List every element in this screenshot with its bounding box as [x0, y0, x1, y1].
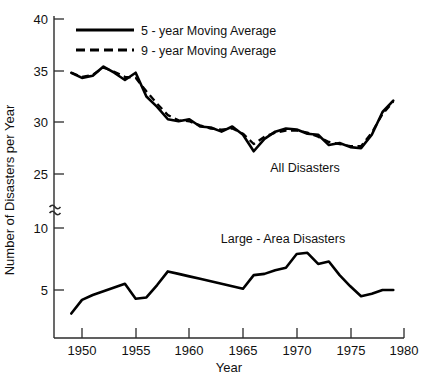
y-axis-title: Number of Disasters per Year	[2, 104, 17, 275]
data-series-layer	[71, 67, 393, 314]
y-tick-label-5: 5	[41, 283, 48, 298]
x-tick-label-1960: 1960	[175, 343, 204, 358]
y-tick-label-10: 10	[34, 221, 48, 236]
x-tick-label-1975: 1975	[337, 343, 366, 358]
x-tick-label-1970: 1970	[283, 343, 312, 358]
disasters-line-chart: 40 35 30 25 10 5 1950 1955 1960 1965 197…	[0, 0, 428, 380]
series-line-large-area-disasters-5-year	[71, 253, 393, 314]
x-tick-label-1965: 1965	[229, 343, 258, 358]
x-axis-ticks	[82, 328, 404, 338]
legend-label-5-year: 5 - year Moving Average	[141, 24, 276, 38]
annotation-large-area-disasters: Large - Area Disasters	[221, 232, 345, 246]
y-axis-ticks	[54, 19, 64, 290]
x-tick-label-1980: 1980	[390, 343, 419, 358]
x-axis-title: Year	[216, 360, 243, 375]
y-tick-label-25: 25	[34, 167, 48, 182]
y-tick-label-35: 35	[34, 64, 48, 79]
legend: 5 - year Moving Average 9 - year Moving …	[76, 24, 276, 58]
legend-label-9-year: 9 - year Moving Average	[141, 44, 276, 58]
chart-canvas: 40 35 30 25 10 5 1950 1955 1960 1965 197…	[0, 0, 428, 380]
x-tick-label-1955: 1955	[122, 343, 151, 358]
y-axis-break-icon	[50, 205, 61, 215]
annotation-all-disasters: All Disasters	[270, 161, 339, 175]
y-tick-label-30: 30	[34, 115, 48, 130]
series-line-all-disasters-9-year	[71, 68, 393, 147]
y-tick-label-40: 40	[34, 12, 48, 27]
series-line-all-disasters-5-year	[71, 67, 393, 152]
x-tick-label-1950: 1950	[68, 343, 97, 358]
